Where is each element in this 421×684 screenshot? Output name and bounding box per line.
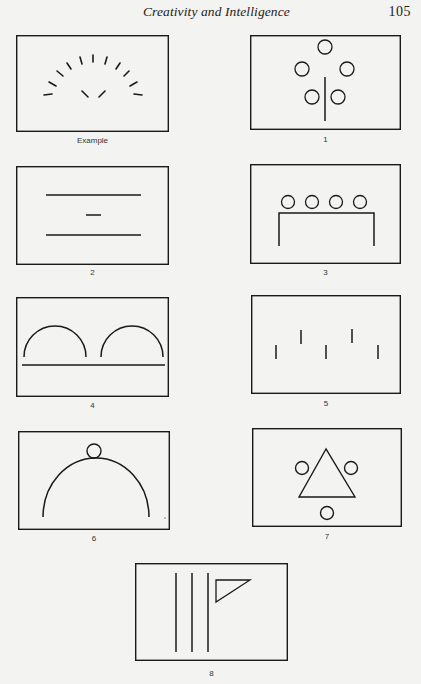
figure-7-caption: 7 (252, 532, 402, 541)
figure-4-drawing (16, 297, 169, 397)
figure-2: 2 (16, 166, 169, 278)
figure-3-caption: 3 (250, 268, 401, 277)
figure-example-caption: Example (16, 136, 169, 145)
figure-example-drawing (16, 35, 169, 132)
figure-5: 5 (251, 295, 401, 407)
figure-2-caption: 2 (16, 268, 169, 277)
figure-6-drawing (18, 431, 170, 530)
figure-7-drawing (252, 428, 402, 527)
figure-5-caption: 5 (251, 399, 401, 408)
figure-4-caption: 4 (16, 401, 169, 410)
figure-6-caption: 6 (18, 534, 170, 543)
figure-1: 1 (250, 35, 401, 145)
figure-5-drawing (251, 295, 401, 394)
figure-8-drawing (135, 563, 288, 661)
figure-6: 6 (18, 431, 170, 543)
figure-1-caption: 1 (250, 135, 401, 144)
figure-2-drawing (16, 166, 169, 265)
figure-8-caption: 8 (135, 669, 288, 678)
figure-1-drawing (250, 35, 401, 130)
figure-8: 8 (135, 563, 288, 678)
figure-7: 7 (252, 428, 402, 540)
running-head: Creativity and Intelligence (143, 4, 290, 20)
figure-3: 3 (250, 164, 401, 276)
figure-example: Example (16, 35, 169, 145)
page-number: 105 (389, 4, 412, 20)
figure-4: 4 (16, 297, 169, 409)
figure-3-drawing (250, 164, 401, 264)
